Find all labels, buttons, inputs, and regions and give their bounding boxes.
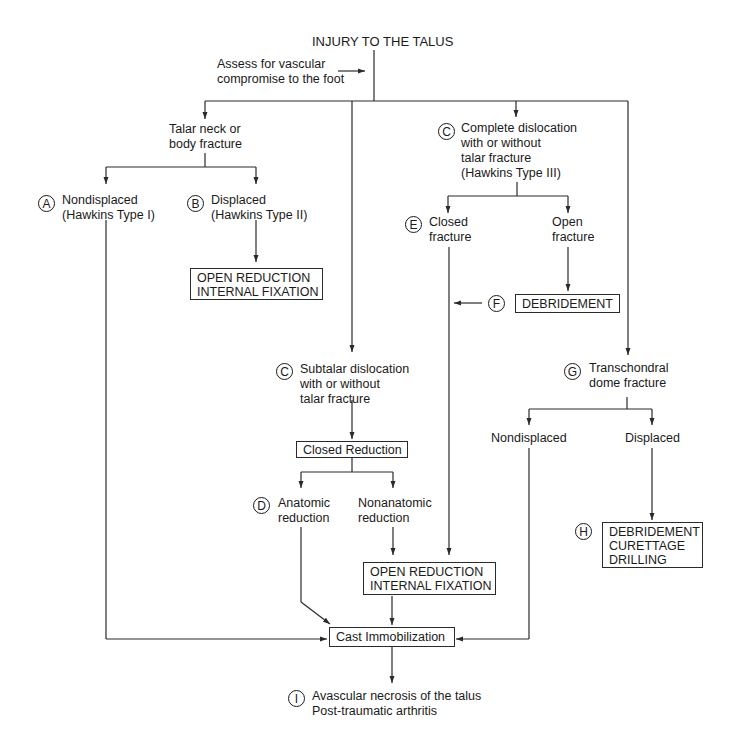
box-orif-top: OPEN REDUCTION INTERNAL FIXATION [190,268,323,300]
label-circle-b: B [187,195,204,212]
node-open-fracture: Open fracture [552,215,594,245]
label-circle-i: I [288,690,305,707]
node-d-anatomic-reduction: Anatomic reduction [278,496,330,526]
label-circle-f: F [488,295,505,312]
node-g-displaced: Displaced [625,431,680,446]
node-a-nondisplaced: Nondisplaced (Hawkins Type I) [62,193,155,223]
box-closed-reduction: Closed Reduction [296,441,408,458]
node-g-nondisplaced: Nondisplaced [491,431,567,446]
label-circle-d: D [253,497,270,514]
box-debridement-f: DEBRIDEMENT [515,294,620,313]
node-c-subtalar-dislocation: Subtalar dislocation with or without tal… [300,362,409,407]
label-circle-e: E [405,216,422,233]
node-e-closed-fracture: Closed fracture [429,215,471,245]
label-circle-a: A [38,195,55,212]
label-circle-g: G [564,363,581,380]
node-i-outcomes: Avascular necrosis of the talus Post-tra… [312,689,481,719]
node-nonanatomic-reduction: Nonanatomic reduction [358,496,432,526]
label-circle-h: H [575,523,592,540]
box-h-debridement-curettage-drilling: DEBRIDEMENT CURETTAGE DRILLING [602,522,703,568]
node-talar-neck: Talar neck or body fracture [169,122,242,152]
box-cast-immobilization: Cast Immobilization [329,627,455,647]
title: INJURY TO THE TALUS [312,34,453,49]
node-c-complete-dislocation: Complete dislocation with or without tal… [461,121,577,181]
box-orif-bottom: OPEN REDUCTION INTERNAL FIXATION [363,562,496,595]
assess-note: Assess for vascular compromise to the fo… [217,57,344,87]
node-g-transchondral: Transchondral dome fracture [589,361,668,391]
label-circle-c-complete: C [438,123,455,140]
node-b-displaced: Displaced (Hawkins Type II) [211,193,307,223]
label-circle-c-subtalar: C [276,363,293,380]
